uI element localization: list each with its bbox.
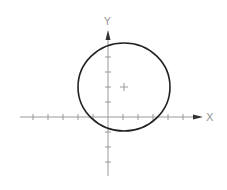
x-axis-arrow-icon (193, 115, 203, 120)
circle-center-marker (120, 83, 128, 91)
y-axis-arrow-icon (106, 30, 111, 40)
diagram-canvas: X Y (0, 0, 227, 190)
x-axis-label: X (206, 111, 214, 124)
y-axis-label: Y (103, 15, 111, 28)
